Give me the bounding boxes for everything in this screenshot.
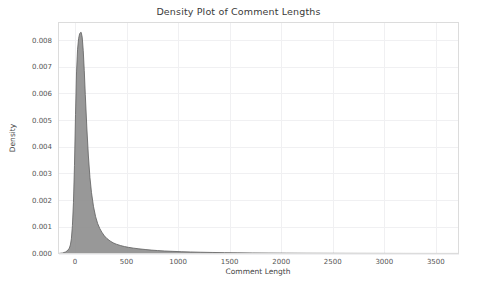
- x-tick-label: 500: [120, 258, 133, 266]
- gridlines-y: [59, 41, 459, 255]
- y-tick-label: 0.005: [32, 117, 52, 125]
- density-plot-svg: 0500100015002000250030003500 0.0000.0010…: [0, 0, 477, 289]
- y-tick-label: 0.001: [32, 223, 52, 231]
- y-tick-label: 0.000: [32, 250, 52, 258]
- y-axis-title: Density: [8, 123, 17, 152]
- x-tick-label: 2500: [324, 258, 342, 266]
- y-tick-label: 0.004: [32, 143, 53, 151]
- y-tick-label: 0.008: [32, 37, 52, 45]
- x-tick-label: 1000: [169, 258, 187, 266]
- x-tick-label: 3500: [427, 258, 445, 266]
- x-tick-label: 1500: [221, 258, 239, 266]
- density-curve-area: [59, 32, 459, 253]
- x-tick-label: 2000: [272, 258, 290, 266]
- gridlines-x: [76, 23, 437, 254]
- y-tick-label: 0.003: [32, 170, 52, 178]
- y-tick-labels: 0.0000.0010.0020.0030.0040.0050.0060.007…: [32, 37, 53, 259]
- x-tick-labels: 0500100015002000250030003500: [73, 258, 445, 266]
- plot-area-border: [59, 23, 459, 254]
- x-tick-label: 0: [73, 258, 77, 266]
- y-tick-label: 0.007: [32, 63, 52, 71]
- x-tick-label: 3000: [375, 258, 393, 266]
- y-tick-label: 0.006: [32, 90, 53, 98]
- density-plot-figure: Density Plot of Comment Lengths 05001000…: [0, 0, 477, 289]
- y-tick-label: 0.002: [32, 197, 52, 205]
- x-axis-title: Comment Length: [226, 267, 291, 276]
